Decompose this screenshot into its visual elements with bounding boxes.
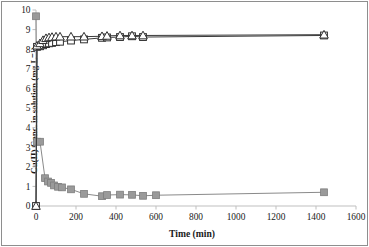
chart-canvas: 02004006008001000120014001600 0123456789… bbox=[0, 0, 369, 247]
data-point bbox=[117, 191, 124, 198]
data-point bbox=[81, 190, 88, 197]
chart-figure: Cu(II) Conc. in solution (mg L⁻¹) Time (… bbox=[0, 0, 369, 247]
x-tick-label: 800 bbox=[189, 212, 203, 222]
y-tick-label: 4 bbox=[26, 123, 31, 133]
data-point bbox=[33, 13, 40, 20]
data-point bbox=[321, 189, 328, 196]
x-tick-label: 200 bbox=[69, 212, 83, 222]
data-point bbox=[129, 191, 136, 198]
x-tick-label: 0 bbox=[34, 212, 39, 222]
y-tick-label: 9 bbox=[26, 25, 31, 35]
y-tick-label: 5 bbox=[26, 103, 31, 113]
series-1 bbox=[33, 13, 328, 200]
y-tick-label: 2 bbox=[26, 162, 31, 172]
y-tick-label: 3 bbox=[26, 143, 31, 153]
y-tick-label: 8 bbox=[26, 45, 31, 55]
x-tick-label: 1200 bbox=[267, 212, 286, 222]
x-tick-label: 1600 bbox=[347, 212, 366, 222]
x-tick-label: 1000 bbox=[227, 212, 246, 222]
series-line bbox=[36, 16, 324, 196]
y-tick-label: 7 bbox=[26, 64, 31, 74]
y-tick-label: 1 bbox=[26, 182, 31, 192]
series-line bbox=[36, 35, 324, 206]
series-3 bbox=[32, 30, 329, 209]
series-line bbox=[36, 35, 324, 206]
data-point bbox=[37, 138, 44, 145]
y-tick-label: 10 bbox=[21, 5, 31, 15]
data-point bbox=[140, 192, 147, 199]
data-point bbox=[104, 192, 111, 199]
x-tick-label: 600 bbox=[149, 212, 163, 222]
y-tick-labels: 012345678910 bbox=[21, 5, 31, 211]
series-2 bbox=[33, 32, 328, 209]
x-tick-label: 1400 bbox=[307, 212, 326, 222]
data-point bbox=[153, 192, 160, 199]
y-tick-label: 0 bbox=[26, 201, 31, 211]
chart-svg: 02004006008001000120014001600 0123456789… bbox=[0, 0, 369, 247]
data-series-group bbox=[32, 13, 329, 210]
data-point bbox=[68, 186, 75, 193]
y-tick-label: 6 bbox=[26, 84, 31, 94]
x-tick-label: 400 bbox=[109, 212, 123, 222]
x-tick-labels: 02004006008001000120014001600 bbox=[34, 212, 366, 222]
data-point bbox=[59, 184, 66, 191]
